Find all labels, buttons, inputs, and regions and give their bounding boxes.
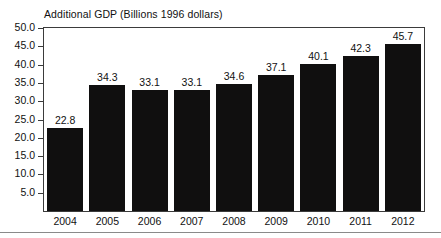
y-tick-label: 20.0: [15, 132, 35, 143]
bar-rect: [343, 56, 379, 211]
y-tick-label: 40.0: [15, 59, 35, 70]
bars-layer: 22.834.333.133.134.637.140.142.345.7: [44, 28, 424, 211]
bar-value-label: 42.3: [335, 42, 387, 54]
y-tick-label: 30.0: [15, 95, 35, 106]
y-tick-label: 45.0: [15, 40, 35, 51]
x-tick-label-2012: 2012: [382, 214, 424, 228]
bar-2006: 33.1: [132, 28, 168, 211]
bar-chart-figure: Additional GDP (Billions 1996 dollars) 5…: [0, 0, 441, 238]
bar-rect: [174, 90, 210, 211]
chart-title: Additional GDP (Billions 1996 dollars): [44, 8, 223, 20]
x-tick-label-2009: 2009: [255, 214, 297, 228]
bar-value-label: 45.7: [377, 30, 429, 42]
bar-2012: 45.7: [385, 28, 421, 211]
x-tick-label-2006: 2006: [128, 214, 170, 228]
y-tick-label: 5.0: [20, 187, 35, 198]
y-tick-label: 10.0: [15, 168, 35, 179]
x-tick-label-2010: 2010: [297, 214, 339, 228]
x-tick-label-2005: 2005: [86, 214, 128, 228]
bar-rect: [385, 44, 421, 211]
y-axis: 50.045.040.035.030.025.020.015.010.05.0: [0, 27, 43, 212]
bar-rect: [132, 90, 168, 211]
bar-2009: 37.1: [258, 28, 294, 211]
bar-2011: 42.3: [343, 28, 379, 211]
x-tick-label-2004: 2004: [44, 214, 86, 228]
bar-rect: [300, 64, 336, 211]
bar-value-label: 22.8: [39, 114, 91, 126]
bar-2005: 34.3: [89, 28, 125, 211]
y-tick-label: 25.0: [15, 114, 35, 125]
bar-rect: [47, 128, 83, 211]
bar-2008: 34.6: [216, 28, 252, 211]
x-axis: 200420052006200720082009201020112012: [44, 214, 424, 230]
y-tick-label: 35.0: [15, 77, 35, 88]
x-tick-label-2011: 2011: [340, 214, 382, 228]
x-tick-label-2008: 2008: [213, 214, 255, 228]
bar-2004: 22.8: [47, 28, 83, 211]
bar-2010: 40.1: [300, 28, 336, 211]
y-tick-label: 50.0: [15, 22, 35, 33]
y-tick-label: 15.0: [15, 150, 35, 161]
bottom-divider: [0, 232, 441, 233]
x-tick-label-2007: 2007: [171, 214, 213, 228]
bar-2007: 33.1: [174, 28, 210, 211]
bar-rect: [216, 84, 252, 211]
bar-value-label: 37.1: [250, 61, 302, 73]
bar-rect: [89, 85, 125, 211]
bar-rect: [258, 75, 294, 211]
